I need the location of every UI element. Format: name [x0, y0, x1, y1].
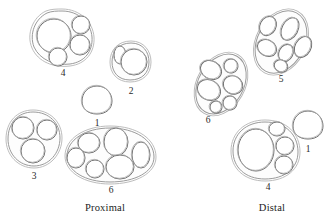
group-number-distal-1: 1 — [298, 145, 318, 155]
group-number-distal-4: 4 — [258, 183, 278, 193]
fascicle-group-distal-1 — [292, 110, 323, 139]
fascicle-figure: 4 2 1 3 6 5 6 4 1 Proximal Distal — [0, 0, 335, 223]
group-number-proximal-6: 6 — [101, 186, 121, 196]
region-label-distal: Distal — [212, 203, 332, 214]
fascicle-group-distal-5 — [242, 0, 319, 85]
fascicle-group-distal-6 — [183, 43, 259, 126]
fascicle-group-proximal-4 — [30, 9, 94, 66]
group-number-distal-6: 6 — [198, 116, 218, 126]
perineurium-outline-distal-6 — [186, 45, 257, 123]
group-number-proximal-3: 3 — [24, 172, 44, 182]
fascicle-drawing-canvas — [0, 0, 335, 223]
fascicle-group-proximal-2 — [110, 41, 151, 82]
group-number-proximal-4: 4 — [53, 69, 73, 79]
group-number-proximal-1: 1 — [87, 119, 107, 129]
fascicle-group-distal-4 — [231, 120, 300, 181]
group-number-distal-5: 5 — [271, 75, 291, 85]
group-number-proximal-2: 2 — [121, 87, 141, 97]
fascicle-group-proximal-6 — [65, 126, 156, 184]
fascicle-group-proximal-1 — [81, 85, 112, 114]
region-label-proximal: Proximal — [45, 203, 165, 214]
fascicle-group-proximal-3 — [6, 110, 62, 168]
